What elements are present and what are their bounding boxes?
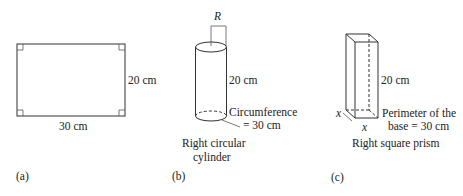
perimeter-label-line1: Perimeter of the — [382, 107, 456, 119]
prism-top-face — [346, 34, 378, 42]
cylinder-height-label: 20 cm — [229, 74, 257, 86]
panel-b-cylinder: R 20 cm Circumference = 30 cm Right circ… — [172, 10, 297, 183]
rectangle-shape — [17, 44, 125, 116]
geometry-figure: 20 cm 30 cm (a) R 20 cm Circumference = … — [0, 0, 463, 196]
panel-c-tag: (c) — [331, 171, 344, 184]
cylinder-bottom-back-arc — [196, 111, 227, 116]
rectangle-width-label: 30 cm — [59, 120, 87, 132]
perimeter-label-line2: base = 30 cm — [388, 120, 449, 132]
panel-b-tag: (b) — [172, 170, 186, 183]
circumference-pointer — [222, 120, 240, 127]
prism-hidden-bottom-right-edge — [369, 110, 378, 118]
cylinder-caption-line2: cylinder — [193, 151, 231, 164]
right-angle-marker-top-left — [17, 44, 23, 50]
circumference-label-line1: Circumference — [229, 106, 297, 118]
right-angle-marker-bottom-left — [17, 110, 23, 116]
panel-c-prism: 20 cm x x Perimeter of the base = 30 cm … — [331, 34, 456, 184]
right-angle-marker-bottom-right — [119, 110, 125, 116]
right-angle-marker-top-right — [119, 44, 125, 50]
cylinder-bottom-front-arc — [196, 116, 227, 121]
radius-label: R — [213, 10, 221, 22]
prism-height-label: 20 cm — [381, 74, 409, 86]
cylinder-caption-line1: Right circular — [182, 137, 246, 150]
prism-caption: Right square prism — [352, 137, 440, 150]
panel-a-tag: (a) — [16, 170, 29, 183]
circumference-label-line2: = 30 cm — [243, 119, 281, 131]
prism-side-label-left: x — [335, 107, 342, 119]
panel-a-rectangle: 20 cm 30 cm (a) — [16, 44, 156, 183]
rectangle-height-label: 20 cm — [128, 74, 156, 86]
prism-side-label-bottom: x — [361, 121, 368, 133]
